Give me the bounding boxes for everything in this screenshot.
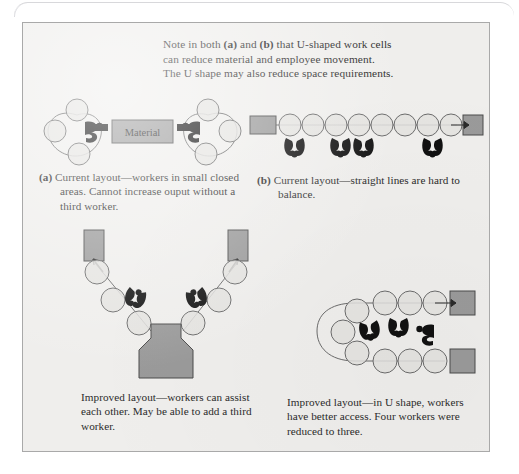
workstation-circle: [417, 114, 439, 136]
workstation-circle: [373, 291, 397, 315]
workstation-circle: [181, 311, 205, 335]
workstation-circle: [345, 299, 369, 323]
workstation-circle: [423, 349, 447, 373]
caption-d: Improved layout—in U shape, workers have…: [287, 395, 479, 438]
figure-note: Note in both (a) and (b) that U-shaped w…: [163, 37, 483, 81]
caption-d-text: Improved layout—in U shape, workers have…: [287, 396, 464, 437]
worker-icon: [388, 318, 408, 338]
worker-icon: [353, 138, 373, 158]
worker-icon: [184, 286, 209, 310]
workstation-circle: [373, 349, 397, 373]
workstation-circle: [398, 291, 422, 315]
workstation-circle: [197, 99, 219, 121]
caption-b-text: Current layout—straight lines are hard t…: [274, 174, 460, 200]
note-line-3: The U shape may also reduce space requir…: [163, 67, 394, 79]
caption-b: (b) Current layout—straight lines are ha…: [257, 173, 478, 202]
workstation-circle: [348, 114, 370, 136]
workstation-circle: [101, 288, 125, 312]
output-box-right: [228, 230, 248, 261]
workstation-circle: [394, 114, 416, 136]
diagram-d: [295, 285, 480, 395]
note-ref-b: (b): [260, 38, 274, 50]
workstation-circle: [44, 120, 66, 142]
workstation-circle: [68, 143, 90, 165]
workstation-circle: [398, 349, 422, 373]
workstation-circle: [331, 320, 355, 344]
output-box-left: [84, 230, 104, 261]
workstation-circle: [207, 288, 231, 312]
caption-b-label: (b): [257, 174, 271, 186]
workstation-circle: [279, 114, 301, 136]
worker-icon: [358, 320, 381, 342]
caption-c-text: Improved layout—workers can assist each …: [81, 391, 252, 432]
note-line-1-pre: Note in both: [163, 38, 224, 50]
worker-icon: [416, 325, 434, 346]
worker-icon: [284, 138, 304, 158]
workstation-circle: [66, 99, 88, 121]
workstation-circle: [219, 120, 241, 142]
note-line-2: can reduce material and employee movemen…: [163, 53, 375, 65]
note-line-1-post: that U-shaped work cells: [274, 38, 392, 50]
workstation-circle: [302, 114, 324, 136]
workstation-circle: [85, 260, 109, 284]
diagram-a: Material: [35, 93, 250, 173]
caption-a-label: (a): [39, 171, 52, 183]
workstation-circle: [223, 260, 247, 284]
workstation-circle: [371, 114, 393, 136]
workstation-circle: [127, 311, 151, 335]
diagram-c: [81, 228, 281, 378]
workstation-circle: [195, 143, 217, 165]
input-box-bottom: [450, 349, 475, 373]
workstation-circle: [345, 341, 369, 365]
worker-icon: [422, 138, 442, 158]
note-ref-a: (a): [224, 38, 237, 50]
figure-panel: Note in both (a) and (b) that U-shaped w…: [22, 22, 490, 452]
material-box-label: Material: [125, 127, 161, 138]
diagram-b: [245, 107, 485, 171]
input-box: [250, 116, 276, 134]
caption-a: (a) Current layout—workers in small clos…: [39, 170, 250, 213]
caption-c: Improved layout—workers can assist each …: [81, 390, 267, 433]
caption-a-text: Current layout—workers in small closed a…: [55, 171, 239, 212]
note-line-1-mid: and: [237, 38, 259, 50]
workstation-circle: [325, 114, 347, 136]
worker-icon: [123, 286, 148, 310]
worker-icon: [330, 138, 350, 158]
